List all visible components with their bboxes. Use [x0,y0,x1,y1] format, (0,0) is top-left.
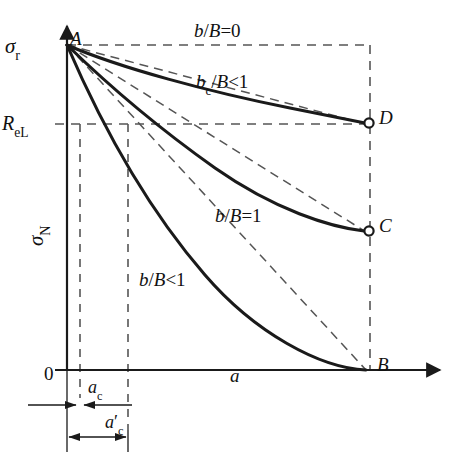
curve-label-b-over-B-eq-0: b/B=0 [194,21,241,40]
point-A-label: A [70,29,82,48]
y-axis-title: σN [26,225,50,246]
curve-label-b-over-B-lt-1: b/B<1 [139,270,186,289]
y-axis-sigma-r-label: σr [5,36,20,60]
y-axis-reL-label: ReL [2,113,29,138]
point-D-marker [364,118,373,127]
curve-label-b-over-B-eq-1: b/B=1 [215,206,262,225]
point-B-label: B [377,355,389,374]
origin-label: 0 [44,364,54,383]
x-axis-title: a [230,366,240,385]
dimension-label-ac: ac [88,378,102,400]
dimension-label-ac-prime: a′c [105,413,123,435]
point-D-label: D [379,108,393,127]
curve-label-bc-over-B-lt-1: bc/B<1 [196,72,248,96]
point-C-marker [364,226,373,235]
point-C-label: C [379,216,392,235]
